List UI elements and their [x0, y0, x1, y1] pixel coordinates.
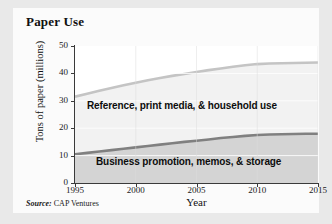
- x-axis-tick-mark: [75, 184, 76, 187]
- y-axis-tick-label: 50: [46, 40, 68, 50]
- source-prefix: Source:: [26, 199, 52, 208]
- band-label-business-promotion: Business promotion, memos, & storage: [96, 156, 281, 167]
- x-axis-tick-mark: [318, 184, 319, 187]
- figure-card: Paper Use 01020304050 199520002005201020…: [13, 8, 319, 213]
- x-axis-tick-mark: [257, 184, 258, 187]
- y-axis-tick-label: 30: [46, 95, 68, 105]
- y-axis-tick-mark: [71, 46, 74, 47]
- y-axis-tick-mark: [71, 183, 74, 184]
- y-axis-tick-mark: [71, 156, 74, 157]
- x-axis-tick-mark: [136, 184, 137, 187]
- band-label-reference-print-media: Reference, print media, & household use: [87, 100, 277, 111]
- source-text: CAP Ventures: [54, 199, 99, 208]
- y-axis-tick-label: 40: [46, 67, 68, 77]
- y-axis-tick-mark: [71, 101, 74, 102]
- x-axis-title: Year: [75, 196, 318, 208]
- y-axis-tick-mark: [71, 73, 74, 74]
- x-axis-tick-mark: [197, 184, 198, 187]
- y-axis-title: Tons of paper (millions): [34, 27, 45, 157]
- source-note: Source: CAP Ventures: [26, 199, 99, 208]
- y-axis-line: [74, 45, 75, 184]
- y-axis-tick-label: 10: [46, 150, 68, 160]
- x-axis-tick-label: 2015: [301, 185, 332, 195]
- y-axis-tick-mark: [71, 128, 74, 129]
- y-axis-tick-label: 20: [46, 122, 68, 132]
